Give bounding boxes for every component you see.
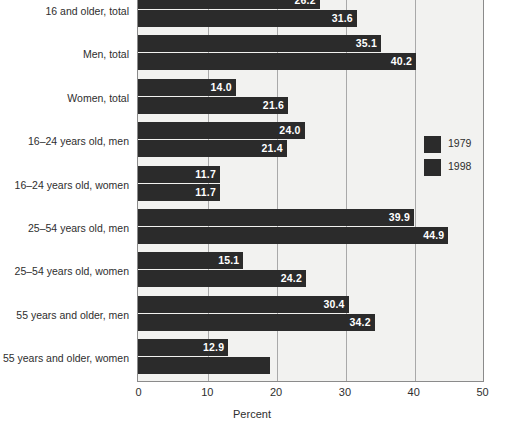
legend-label: 1998: [448, 160, 471, 172]
category-label: 16–24 years old, men: [0, 135, 129, 147]
category-label: 16–24 years old, women: [0, 179, 129, 191]
bar-value-label: 15.1: [218, 252, 239, 269]
bar: 15.1: [138, 252, 243, 269]
bar-value-label: 34.2: [350, 314, 371, 331]
x-tick-label: 20: [270, 386, 282, 398]
bar-value-label: 44.9: [423, 227, 444, 244]
bar: 24.0: [138, 122, 305, 139]
bar-value-label: 11.7: [195, 166, 216, 183]
bar: 14.0: [138, 79, 236, 96]
bar-value-label: 35.1: [356, 35, 377, 52]
x-axis-title-text: Percent: [233, 408, 271, 420]
bar-value-label: 39.9: [389, 209, 410, 226]
category-label: 25–54 years old, men: [0, 222, 129, 234]
x-tick-label: 50: [476, 386, 488, 398]
legend: 1979 1998: [424, 136, 486, 182]
bar-value-label: 11.7: [195, 184, 216, 201]
legend-swatch-icon: [424, 136, 441, 153]
bar-value-label: 21.6: [263, 97, 284, 114]
category-label: 55 years and older, men: [0, 309, 129, 321]
x-tick-label: 10: [201, 386, 213, 398]
bar: 11.7: [138, 184, 220, 201]
bar: 30.4: [138, 296, 349, 313]
bar: 35.1: [138, 35, 381, 52]
bar: 12.9: [138, 339, 228, 356]
category-label: 16 and older, total: [0, 5, 129, 17]
category-labels: 16 and older, totalMen, totalWomen, tota…: [0, 0, 137, 427]
bar-value-label: 24.0: [279, 122, 300, 139]
x-axis: 01020304050: [137, 384, 484, 404]
bar: [138, 357, 270, 374]
bar-value-label: 26.2: [295, 0, 316, 9]
plot-area: 26.231.635.140.214.021.624.021.411.711.7…: [137, 0, 484, 382]
bar-chart: 26.231.635.140.214.021.624.021.411.711.7…: [0, 0, 505, 427]
bar: 24.2: [138, 270, 306, 287]
legend-swatch-icon: [424, 159, 441, 176]
bar-value-label: 31.6: [332, 10, 353, 27]
bar-value-label: 30.4: [323, 296, 344, 313]
bar: 39.9: [138, 209, 414, 226]
x-tick-label: 40: [408, 386, 420, 398]
bar: 40.2: [138, 53, 416, 70]
x-axis-title: Percent: [0, 408, 505, 420]
legend-label: 1979: [448, 137, 471, 149]
bar-value-label: 14.0: [211, 79, 232, 96]
bar-value-label: 21.4: [261, 140, 282, 157]
category-label: 25–54 years old, women: [0, 265, 129, 277]
x-tick-label: 30: [339, 386, 351, 398]
category-label: 55 years and older, women: [0, 352, 129, 364]
bar: 26.2: [138, 0, 320, 9]
category-label: Men, total: [0, 48, 129, 60]
bar: 31.6: [138, 10, 357, 27]
x-tick-label: 0: [135, 386, 141, 398]
legend-item-1998: 1998: [424, 159, 486, 182]
bar: 44.9: [138, 227, 448, 244]
bar-value-label: 24.2: [281, 270, 302, 287]
bar: 34.2: [138, 314, 375, 331]
bar: 21.4: [138, 140, 287, 157]
legend-item-1979: 1979: [424, 136, 486, 159]
bar: 21.6: [138, 97, 288, 114]
bar-value-label: 12.9: [203, 339, 224, 356]
category-label: Women, total: [0, 92, 129, 104]
bar: 11.7: [138, 166, 220, 183]
bar-value-label: 40.2: [391, 53, 412, 70]
